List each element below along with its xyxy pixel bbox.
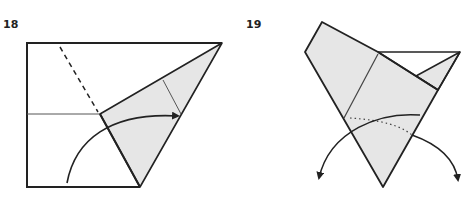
origami-diagrams	[0, 0, 461, 200]
valley-fold-line	[60, 47, 98, 112]
step-18-diagram	[27, 43, 222, 187]
step-19-diagram	[305, 22, 460, 187]
right-arrow-icon	[412, 135, 458, 180]
